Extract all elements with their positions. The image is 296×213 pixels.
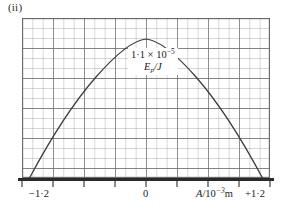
x-tick-label-min: −1·2 [29,188,49,199]
x-axis-unit: /10 [202,188,215,199]
energy-subscript: p [151,66,155,74]
x-axis-ticks [18,181,274,188]
peak-value-text: 1·1 × 10−5 [131,49,175,61]
energy-axis-label: Ep/J [131,61,175,73]
x-axis-unit-exponent: −3 [216,186,225,195]
peak-value-exponent: −5 [167,47,175,56]
x-tick-label-max: +1·2 [245,188,265,199]
x-axis-unit-tail: m [225,188,233,199]
x-tick-label-zero: 0 [143,188,148,199]
peak-value-mantissa: 1·1 × 10 [131,49,167,60]
figure-container: (ii) [0,0,296,213]
peak-value-annotation: 1·1 × 10−5 Ep/J [128,48,178,75]
energy-unit: /J [154,61,162,72]
energy-curve [22,18,270,179]
energy-symbol: E [144,61,150,72]
part-label: (ii) [8,1,22,13]
x-axis-title: A/10−3m [196,188,233,199]
